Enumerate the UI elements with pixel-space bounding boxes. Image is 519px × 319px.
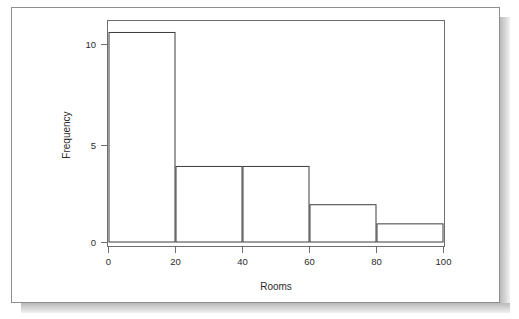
- histogram-bar: [310, 205, 376, 242]
- y-axis-title: Frequency: [61, 111, 72, 158]
- card-drop-shadow-bottom: [21, 303, 510, 313]
- x-tick-label-80: 80: [371, 256, 382, 267]
- x-tick-label-100: 100: [436, 256, 452, 267]
- y-axis-ticks: [101, 45, 108, 243]
- histogram-bar: [176, 166, 242, 242]
- x-tick-label-20: 20: [170, 256, 181, 267]
- y-tick-label-0: 0: [91, 237, 96, 248]
- histogram-bar: [109, 32, 175, 242]
- y-tick-label-10: 10: [85, 39, 96, 50]
- screenshot-root: 0 5 10 Frequency 0 20 40 60 80: [0, 0, 519, 319]
- y-tick-label-5: 5: [91, 140, 96, 151]
- figure-card: 0 5 10 Frequency 0 20 40 60 80: [11, 7, 500, 303]
- histogram-chart: 0 5 10 Frequency 0 20 40 60 80: [12, 8, 501, 304]
- x-tick-label-40: 40: [237, 256, 248, 267]
- x-tick-label-0: 0: [106, 256, 111, 267]
- x-tick-label-60: 60: [304, 256, 315, 267]
- histogram-bar: [243, 166, 309, 242]
- card-drop-shadow-right: [500, 17, 510, 313]
- x-axis-title: Rooms: [260, 281, 292, 292]
- histogram-svg: 0 5 10 Frequency 0 20 40 60 80: [12, 8, 501, 304]
- histogram-bars: [109, 32, 443, 242]
- x-axis-ticks: [109, 247, 444, 254]
- histogram-bar: [377, 224, 443, 242]
